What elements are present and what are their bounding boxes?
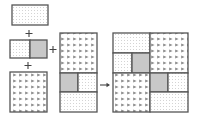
plus-sign-3 — [50, 46, 57, 53]
piece-middle-composite — [60, 33, 97, 112]
piece-split-rect — [10, 40, 47, 58]
arrow-icon — [100, 83, 110, 87]
plus-sign-2 — [25, 62, 32, 69]
final-composite — [113, 33, 188, 112]
piece-triangle-square — [10, 72, 47, 112]
piece-top-rect — [12, 5, 48, 25]
plus-sign-1 — [26, 30, 33, 37]
puzzle-diagram — [0, 0, 202, 126]
